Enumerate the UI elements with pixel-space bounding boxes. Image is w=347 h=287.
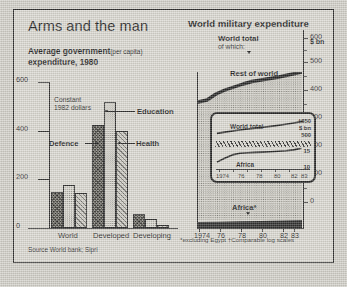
right-y-minor-350 [304, 104, 307, 105]
bar-developed-education [104, 102, 116, 229]
x-label-developed: Developed [93, 231, 129, 240]
inset-x-axis-line [216, 169, 310, 170]
bar-group-developing [132, 82, 172, 228]
inset-x-label-83: 83 [301, 173, 308, 179]
x-label-developing: Developing [133, 231, 171, 240]
left-y-axis-label: Constant 1982 dollars [54, 96, 91, 113]
inset-label-500: 500 [301, 132, 311, 138]
left-chart-title-main: Average government [28, 46, 110, 56]
annotation-defence: Defence [49, 139, 79, 148]
bar-world-defence [51, 192, 63, 229]
bar-developed-defence [92, 125, 104, 228]
annotation-health-leader [121, 143, 135, 144]
y-tick-0: 0 [50, 228, 172, 229]
right-y-minor-450 [304, 76, 307, 77]
bar-developing-defence [133, 214, 145, 228]
annotation-world-total-arrow [247, 51, 251, 54]
right-y-axis-left-line [197, 72, 198, 229]
inset-x-label-1974: 1974 [216, 173, 229, 179]
right-chart-panel: World military expenditure 600 500 400 3… [186, 10, 335, 262]
annotation-education: Education [137, 107, 174, 116]
left-chart-title: Average government(per capita) expenditu… [28, 46, 178, 67]
bar-group-developed [91, 82, 131, 228]
right-y-minor-550 [304, 50, 307, 51]
inset-label-unit: $ bn [299, 125, 311, 131]
inset-label-15: 15 [303, 148, 310, 154]
area-africa [198, 219, 302, 228]
left-chart-title-line1: Average government(per capita) [28, 46, 178, 56]
inset-annotation-world-total: World total [230, 123, 263, 130]
bar-developed-health [116, 131, 128, 228]
annotation-africa: Africa* [232, 203, 256, 212]
inset-x-label-82: 82 [291, 173, 298, 179]
page-title: Arms and the man [28, 18, 148, 34]
right-chart-title: World military expenditure [188, 18, 309, 29]
inset-x-label-80: 80 [274, 173, 281, 179]
annotation-education-leader [107, 111, 135, 112]
annotation-world-total: World total [218, 34, 259, 43]
infographic-figure: Arms and the man Average government(per … [13, 9, 334, 263]
inset-label-650: †650 [298, 118, 311, 124]
footnote: *excluding Egypt †Comparable log scales [180, 236, 294, 243]
inset-x-label-78: 78 [256, 173, 263, 179]
left-chart-title-paren: (per capita) [110, 48, 142, 55]
left-chart-panel: Arms and the man Average government(per … [14, 10, 186, 262]
right-x-axis-line [197, 228, 304, 229]
bar-developing-health [157, 225, 169, 228]
left-y-axis-label-line1: Constant [54, 96, 91, 104]
bar-developing-education [145, 219, 157, 228]
annotation-africa-arrow [246, 212, 250, 215]
bar-world-health [75, 193, 87, 228]
x-label-world: World [58, 231, 78, 240]
right-y-axis-unit-label: $ bn [310, 38, 324, 45]
left-y-axis-label-line2: 1982 dollars [54, 104, 91, 112]
right-y-minor-50 [304, 188, 307, 189]
inset-axis-break [215, 141, 311, 147]
annotation-health: Health [136, 139, 159, 148]
bar-world-education [63, 185, 75, 228]
left-chart-title-line2: expenditure, 1980 [28, 57, 178, 67]
inset-x-label-76: 76 [238, 173, 245, 179]
annotation-of-which: of which: [218, 43, 245, 50]
annotation-rest-of-world: Rest of world [230, 69, 278, 78]
source-note: Source World bank; Sipri [28, 246, 98, 253]
inset-chart: World total Africa †650 $ bn 500 15 10 1… [210, 112, 316, 183]
inset-annotation-africa: Africa [236, 161, 254, 168]
